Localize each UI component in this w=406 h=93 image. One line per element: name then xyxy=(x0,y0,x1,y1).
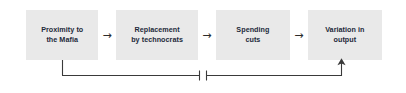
flow-diagram: Proximity to the Mafia → Replacement by … xyxy=(0,0,406,93)
arrow-right-icon-3: → xyxy=(290,10,308,60)
flow-chain: Proximity to the Mafia → Replacement by … xyxy=(26,10,382,60)
flow-node-label: Replacement by technocrats xyxy=(131,25,183,44)
flow-node-label: Spending cuts xyxy=(236,25,269,44)
flow-node-proximity[interactable]: Proximity to the Mafia xyxy=(26,10,98,60)
flow-node-variation[interactable]: Variation in output xyxy=(308,10,382,60)
flow-node-label: Proximity to the Mafia xyxy=(41,25,83,44)
feedback-connector xyxy=(0,55,406,93)
flow-node-spending[interactable]: Spending cuts xyxy=(216,10,290,60)
flow-node-label: Variation in output xyxy=(325,25,364,44)
flow-node-replacement[interactable]: Replacement by technocrats xyxy=(116,10,198,60)
arrow-right-icon-2: → xyxy=(198,10,216,60)
arrow-right-icon-1: → xyxy=(98,10,116,60)
